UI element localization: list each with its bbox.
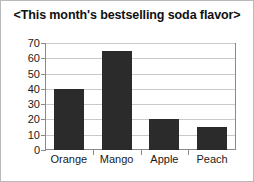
y-axis-tick-label: 50 xyxy=(6,68,40,80)
y-axis-tick-label: 70 xyxy=(6,37,40,49)
chart-screenshot: <This month's bestselling soda flavor> 0… xyxy=(0,0,254,182)
chart-title: <This month's bestselling soda flavor> xyxy=(1,8,253,22)
x-axis-separator xyxy=(188,150,189,155)
bar-peach xyxy=(197,127,227,150)
bar-apple xyxy=(149,119,179,150)
y-axis-labels: 010203040506070 xyxy=(9,43,40,150)
x-axis-separator xyxy=(141,150,142,155)
x-axis-label-peach: Peach xyxy=(197,153,228,165)
y-axis-tick-label: 20 xyxy=(6,113,40,125)
bar-series xyxy=(45,43,236,150)
bar-slot xyxy=(45,43,93,150)
bar-slot xyxy=(141,43,189,150)
x-axis-label-apple: Apple xyxy=(150,153,178,165)
y-axis-tick-label: 10 xyxy=(6,129,40,141)
bar-slot xyxy=(93,43,141,150)
y-axis-tick-label: 0 xyxy=(6,144,40,156)
y-axis-tick-label: 40 xyxy=(6,83,40,95)
bar-slot xyxy=(188,43,236,150)
x-axis-label-mango: Mango xyxy=(100,153,134,165)
bar-mango xyxy=(102,51,132,150)
x-axis-label-orange: Orange xyxy=(51,153,88,165)
y-axis-tick-label: 60 xyxy=(6,52,40,64)
chart-plot-container: 010203040506070 OrangeMangoApplePeach xyxy=(9,31,245,174)
bar-orange xyxy=(54,89,84,150)
x-axis-separator xyxy=(93,150,94,155)
y-axis-tick-label: 30 xyxy=(6,98,40,110)
x-axis-labels: OrangeMangoApplePeach xyxy=(45,150,236,170)
